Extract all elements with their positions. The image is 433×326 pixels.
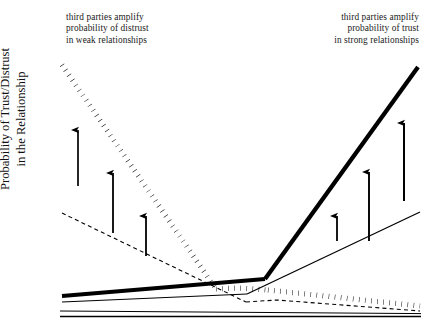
left-annotation-label: third parties amplify probability of dis… (66, 12, 149, 46)
y-axis-label: Probability of Trust/Distrust in the Rel… (0, 24, 29, 214)
thin-solid-rising-segment (247, 212, 420, 294)
right-annotation-label: third parties amplify probability of tru… (334, 12, 419, 46)
trust-distrust-diagram: third parties amplify probability of dis… (0, 0, 433, 326)
thin-dashed-right-tail-segment (246, 300, 420, 311)
diagram-canvas (0, 0, 433, 326)
curve-distrust-amplified-weak (62, 65, 420, 306)
amplification-arrows-right (337, 123, 404, 241)
curve-distrust-baseline-weak (62, 213, 420, 311)
curve-trust-amplified-strong (62, 67, 418, 296)
x-axis-secondary-rule (60, 311, 421, 314)
amplification-arrows-left (78, 130, 146, 256)
thick-dotted-descending-segment (62, 65, 216, 289)
thick-dotted-right-tail-segment (268, 290, 420, 306)
y-axis-label-container: Probability of Trust/Distrust in the Rel… (0, 24, 44, 214)
thick-solid-rising-segment (265, 67, 418, 279)
curve-trust-baseline-strong (62, 212, 420, 302)
